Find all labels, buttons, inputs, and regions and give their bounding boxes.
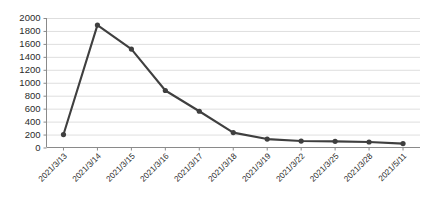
data-line-series — [63, 25, 403, 143]
gridlines — [44, 19, 421, 149]
x-tick-label: 2021/3/18 — [207, 151, 239, 183]
x-tick-label: 2021/3/14 — [71, 151, 103, 183]
y-tick-label: 1200 — [19, 64, 40, 75]
x-tick-label: 2021/3/22 — [274, 151, 306, 183]
y-tick-label: 1400 — [19, 51, 40, 62]
data-point-marker — [129, 46, 134, 51]
y-axis-tick-labels: 0200400600800100012001400160018002000 — [19, 12, 40, 153]
data-point-marker — [400, 141, 405, 146]
x-tick-label: 2021/3/28 — [342, 151, 374, 183]
data-point-marker — [299, 138, 304, 143]
y-tick-label: 1000 — [19, 77, 40, 88]
y-tick-label: 800 — [25, 90, 41, 101]
y-tick-label: 0 — [35, 142, 40, 153]
x-tick-label: 2021/3/16 — [139, 151, 171, 183]
data-point-marker — [265, 136, 270, 141]
y-tick-label: 1800 — [19, 25, 40, 36]
y-tick-label: 200 — [25, 129, 41, 140]
x-tick-label: 2021/3/13 — [37, 151, 69, 183]
x-tick-label: 2021/5/11 — [377, 151, 409, 183]
x-tick-label: 2021/3/25 — [308, 151, 340, 183]
data-point-marker — [95, 23, 100, 28]
x-tick-label: 2021/3/17 — [173, 151, 205, 183]
data-point-marker — [333, 139, 338, 144]
y-tick-label: 2000 — [19, 12, 40, 23]
x-tick-label: 2021/3/19 — [240, 151, 272, 183]
x-tick-label: 2021/3/15 — [105, 151, 137, 183]
data-point-marker — [231, 130, 236, 135]
data-point-marker — [61, 132, 66, 137]
y-tick-label: 600 — [25, 103, 41, 114]
data-point-marker — [197, 109, 202, 114]
x-axis-tick-labels: 2021/3/132021/3/142021/3/152021/3/162021… — [37, 151, 409, 183]
data-point-marker — [163, 88, 168, 93]
data-point-markers — [61, 23, 406, 147]
y-tick-label: 1600 — [19, 38, 40, 49]
line-chart: 0200400600800100012001400160018002000 20… — [0, 0, 432, 205]
y-tick-label: 400 — [25, 116, 41, 127]
chart-canvas: 0200400600800100012001400160018002000 20… — [0, 0, 432, 205]
data-point-marker — [366, 139, 371, 144]
